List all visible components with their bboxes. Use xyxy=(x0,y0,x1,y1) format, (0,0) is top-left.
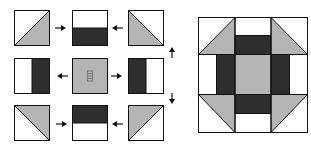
arrow-right-icon xyxy=(55,25,66,31)
arrow-right-icon xyxy=(111,73,122,79)
arrow-left-icon xyxy=(112,121,123,127)
arrow-left-icon xyxy=(57,73,68,79)
arrow-right-icon xyxy=(56,121,67,127)
piece-middle-right-two-patch xyxy=(128,58,164,94)
arrow-up-icon xyxy=(169,47,175,58)
piece-top-left-hst xyxy=(14,10,50,46)
piece-top-right-hst xyxy=(128,10,164,46)
piece-top-center-two-patch xyxy=(72,10,108,46)
piece-center-square xyxy=(72,58,108,94)
piece-bottom-left-hst xyxy=(14,105,50,141)
finished-quilt-block xyxy=(198,17,308,133)
piece-bottom-center-two-patch xyxy=(72,105,108,141)
piece-bottom-right-hst xyxy=(128,105,164,141)
piece-middle-left-two-patch xyxy=(14,58,50,94)
arrow-left-icon xyxy=(112,25,123,31)
arrow-down-icon xyxy=(169,93,175,104)
